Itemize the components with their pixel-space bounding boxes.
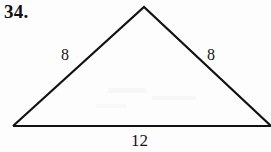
right-leg-length-label: 8 bbox=[207, 47, 215, 63]
left-leg-length-label: 8 bbox=[61, 47, 69, 63]
triangle-outline bbox=[13, 7, 271, 126]
base-length-label: 12 bbox=[131, 132, 148, 149]
triangle-diagram bbox=[0, 0, 271, 152]
figure-container: 34. 8 8 12 bbox=[0, 0, 271, 152]
